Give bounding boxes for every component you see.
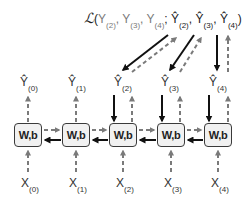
loss-formula: ℒ(Y(2), Y(3), Y(4); Ŷ(2), Ŷ(3), Ŷ(4)) bbox=[84, 11, 242, 30]
rnn-cell-4: W,b bbox=[204, 123, 232, 147]
arrows-layer bbox=[0, 0, 246, 201]
loss-gradient-arrows bbox=[123, 35, 217, 70]
pred-y3: Ŷ(3), bbox=[195, 12, 219, 26]
loss-symbol: ℒ bbox=[84, 10, 94, 26]
target-y3: Y(3), bbox=[122, 12, 146, 26]
output-gradient-arrows bbox=[114, 95, 209, 121]
target-y4: Y(4) bbox=[147, 12, 165, 26]
output-label-1: Ŷ(1) bbox=[68, 76, 86, 93]
output-label-2: Ŷ(2) bbox=[114, 76, 132, 93]
input-label-4: X(4) bbox=[211, 177, 229, 194]
target-y2: Y(2), bbox=[98, 12, 122, 26]
rnn-cell-2: W,b bbox=[109, 123, 137, 147]
rnn-cell-1: W,b bbox=[62, 123, 90, 147]
pred-y2: Ŷ(2), bbox=[171, 12, 195, 26]
input-label-2: X(2) bbox=[116, 177, 134, 194]
output-label-3: Ŷ(3) bbox=[161, 76, 179, 93]
input-label-0: X(0) bbox=[21, 177, 39, 194]
rnn-cell-0: W,b bbox=[14, 123, 42, 147]
rnn-diagram: ℒ(Y(2), Y(3), Y(4); Ŷ(2), Ŷ(3), Ŷ(4)) Ŷ(… bbox=[0, 0, 246, 201]
output-label-0: Ŷ(0) bbox=[20, 76, 38, 93]
input-label-3: X(3) bbox=[164, 177, 182, 194]
input-label-1: X(1) bbox=[69, 177, 87, 194]
output-label-4: Ŷ(4) bbox=[209, 76, 227, 93]
input-arrows bbox=[28, 151, 218, 172]
pred-y4: Ŷ(4) bbox=[220, 12, 238, 26]
output-arrows bbox=[28, 97, 228, 122]
rnn-cell-3: W,b bbox=[157, 123, 185, 147]
